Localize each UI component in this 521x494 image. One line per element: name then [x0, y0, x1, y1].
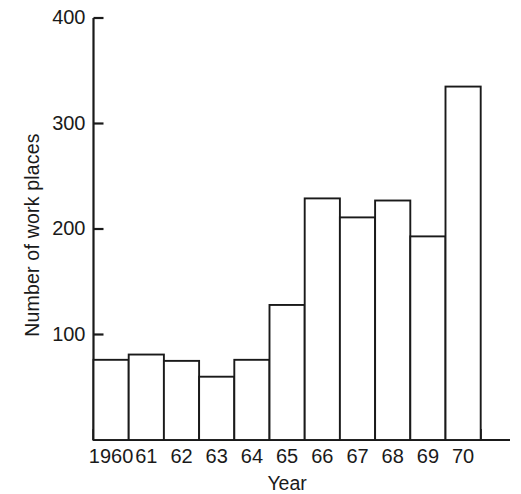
y-axis-tick-label: 200: [38, 217, 86, 239]
bar: [234, 360, 269, 440]
bar: [199, 377, 234, 440]
bar-series: [94, 87, 481, 440]
y-axis-tick-label: 300: [38, 112, 86, 134]
bar-chart-figure: Number of work places 100200300400 19606…: [0, 0, 521, 494]
bar: [94, 360, 129, 440]
bar: [164, 361, 199, 440]
y-axis-ticks: [94, 18, 104, 335]
bar: [446, 87, 481, 440]
x-axis-label: Year: [187, 472, 387, 494]
bar: [129, 355, 164, 440]
x-axis-tick-label: 70: [428, 445, 498, 467]
chart-plot-area: [0, 0, 521, 494]
bar: [270, 305, 305, 440]
y-axis-tick-label: 400: [38, 6, 86, 28]
bar: [305, 198, 340, 440]
y-axis-tick-label: 100: [38, 323, 86, 345]
bar: [410, 236, 445, 440]
bar: [375, 201, 410, 440]
bar: [340, 217, 375, 440]
